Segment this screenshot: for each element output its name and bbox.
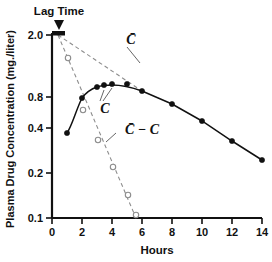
x-ticklabel-6: 6 [139, 226, 145, 238]
c-point-t8 [169, 101, 174, 106]
residual-point-t5.6 [133, 212, 138, 217]
x-ticklabel-0: 0 [49, 226, 55, 238]
chart-figure: Plasma Drug Concentration (mg./liter) 2.… [0, 0, 272, 262]
y-ticklabel-0.8: 0.8 [28, 91, 43, 103]
c-curve-path [67, 85, 262, 160]
lag-time-label: Lag Time [34, 5, 84, 17]
c-point-t2 [79, 95, 84, 100]
c-point-t3.5 [101, 82, 106, 87]
x-ticklabel-8: 8 [169, 226, 175, 238]
residual-annotation: C̄ − C [125, 122, 160, 137]
lag-time-marker-triangle [54, 20, 64, 30]
x-ticklabel-14: 14 [256, 226, 269, 238]
c-point-t6 [139, 88, 144, 93]
residual-point-t4 [110, 164, 115, 169]
residual-leader-line [106, 133, 116, 142]
x-ticklabel-4: 4 [109, 226, 116, 238]
y-ticklabel-0.4: 0.4 [28, 122, 44, 134]
cbar-leader-line [127, 47, 140, 63]
c-leader-line-2 [103, 88, 112, 101]
c-point-t4 [109, 81, 114, 86]
x-ticklabel-10: 10 [196, 226, 208, 238]
c-point-t12 [229, 138, 234, 143]
y-axis-title: Plasma Drug Concentration (mg./liter) [4, 30, 16, 228]
lag-time-bar [52, 31, 65, 36]
c-point-t14 [259, 157, 264, 162]
x-axis-title: Hours [140, 244, 173, 256]
c-point-t3 [94, 84, 99, 89]
cbar-annotation: C̄ [126, 32, 136, 47]
x-ticklabel-12: 12 [226, 226, 238, 238]
y-ticklabel-2.0: 2.0 [28, 29, 43, 41]
residual-point-t1 [65, 55, 70, 60]
c-point-t10 [199, 118, 204, 123]
c-point-t5 [124, 81, 129, 86]
residual-point-t3 [95, 137, 100, 142]
c-leader-line-1 [100, 90, 104, 101]
residual-point-t2 [80, 107, 85, 112]
y-ticklabel-0.2: 0.2 [28, 167, 43, 179]
residual-point-t5 [125, 192, 130, 197]
y-ticklabel-0.1: 0.1 [28, 212, 43, 224]
c-annotation: C [100, 101, 110, 116]
c-point-t1 [64, 130, 69, 135]
x-ticklabel-2: 2 [79, 226, 85, 238]
semilog-plot: Plasma Drug Concentration (mg./liter) 2.… [0, 0, 272, 262]
